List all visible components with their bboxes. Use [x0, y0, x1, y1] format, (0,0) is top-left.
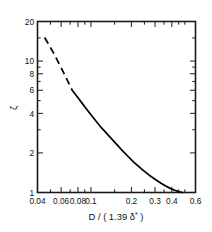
x-tick-label: 0.2 [126, 196, 138, 206]
x-axis-title: D / ( 1.39 δ* ) [89, 211, 144, 222]
figure-container: 0.040.060.080.10.20.30.40.6 124681020 D … [0, 0, 212, 232]
x-tick-label: 0.6 [190, 196, 202, 206]
x-tick-label: 0.08 [70, 196, 87, 206]
x-axis-ticks-top [38, 22, 196, 28]
data-curve-extrapolated [45, 38, 73, 91]
y-tick-label: 1 [29, 188, 34, 198]
data-curve-measured [72, 90, 182, 192]
y-tick-label: 4 [29, 109, 34, 119]
x-tick-label: 0.3 [149, 196, 161, 206]
y-axis-ticks-left [38, 22, 44, 193]
log-log-plot: 0.040.060.080.10.20.30.40.6 124681020 D … [0, 0, 212, 232]
plot-frame [38, 22, 196, 193]
y-tick-label: 8 [29, 69, 34, 79]
y-tick-label: 10 [25, 56, 35, 66]
y-tick-label: 20 [25, 17, 35, 27]
y-tick-label: 2 [29, 148, 34, 158]
y-axis-tick-labels: 124681020 [25, 17, 35, 198]
y-axis-ticks-right [190, 22, 196, 193]
x-axis-tick-labels: 0.040.060.080.10.20.30.40.6 [29, 196, 201, 206]
y-tick-label: 6 [29, 85, 34, 95]
x-tick-label: 0.1 [85, 196, 97, 206]
x-tick-label: 0.4 [166, 196, 178, 206]
y-axis-title: ζ [8, 106, 19, 110]
x-tick-label: 0.06 [53, 196, 70, 206]
